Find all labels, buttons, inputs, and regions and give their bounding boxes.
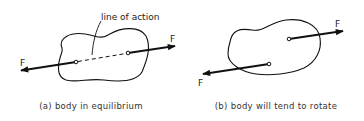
- body-outline-a: [58, 29, 148, 81]
- line-of-action-label: line of action: [101, 12, 159, 22]
- force-label-left-a: F: [20, 58, 25, 68]
- force-arrow-lower-b: [203, 64, 269, 74]
- force-diagrams: line of action F F (a) body in equilibri…: [0, 0, 364, 121]
- force-arrow-upper-b: [289, 31, 343, 39]
- line-of-action-dashed: [78, 54, 126, 62]
- application-point-upper-b: [287, 37, 291, 41]
- application-point-right-a: [126, 51, 130, 55]
- annotation-leader: [92, 21, 101, 55]
- force-arrow-right-a: [128, 46, 175, 53]
- force-label-right-a: F: [170, 34, 175, 44]
- application-point-lower-b: [267, 62, 271, 66]
- application-point-left-a: [74, 60, 78, 64]
- body-outline-b: [228, 20, 320, 75]
- force-label-lower-b: F: [198, 78, 203, 88]
- force-arrow-left-a: [21, 62, 76, 71]
- panel-b-rotation: F F (b) body will tend to rotate: [198, 19, 343, 111]
- panel-a-equilibrium: line of action F F (a) body in equilibri…: [20, 12, 175, 111]
- force-label-upper-b: F: [335, 19, 340, 29]
- caption-a: (a) body in equilibrium: [39, 101, 143, 111]
- caption-b: (b) body will tend to rotate: [215, 101, 338, 111]
